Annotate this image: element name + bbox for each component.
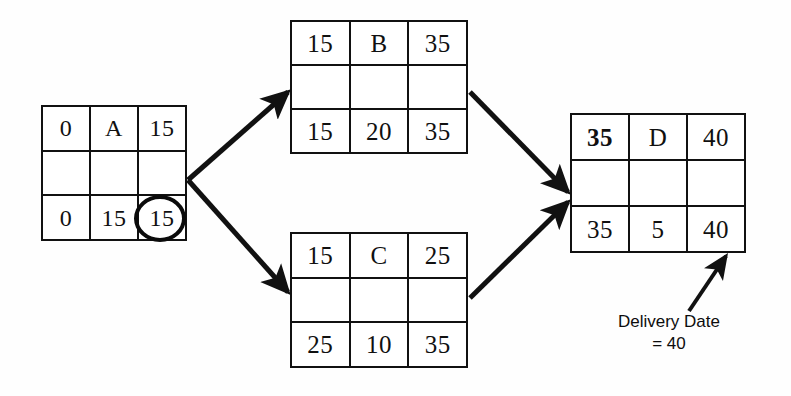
- delivery-date-value: = 40: [593, 333, 745, 355]
- node-a-label: A: [91, 107, 139, 150]
- node-b-label: B: [351, 22, 410, 64]
- node-d-late-finish: 40: [688, 207, 744, 251]
- node-a-duration: 15: [91, 196, 139, 239]
- node-d-slack-right: [688, 161, 744, 205]
- node-c-top-row: 15 C 25: [292, 234, 466, 279]
- node-b-duration: 20: [351, 110, 410, 152]
- node-c-slack-right: [409, 279, 466, 322]
- node-a-slack-center: [91, 152, 139, 195]
- node-d[interactable]: 35 D 40 35 5 40: [570, 113, 746, 253]
- node-b-early-start: 15: [292, 22, 351, 64]
- node-c-bottom-row: 25 10 35: [292, 323, 466, 366]
- edge-a-to-b: [188, 92, 288, 180]
- node-b-bottom-row: 15 20 35: [292, 110, 466, 152]
- node-b-slack-right: [409, 66, 466, 108]
- node-b-middle-row: [292, 66, 466, 110]
- node-b-late-finish: 35: [409, 110, 466, 152]
- edge-c-to-d: [470, 202, 568, 298]
- edge-b-to-d: [470, 92, 568, 192]
- node-d-late-start: 35: [572, 207, 630, 251]
- node-d-early-start: 35: [572, 115, 630, 159]
- delivery-date-label: Delivery Date: [618, 312, 720, 331]
- node-c-middle-row: [292, 279, 466, 324]
- node-a-slack-right: [139, 152, 185, 195]
- node-a-early-start: 0: [43, 107, 91, 150]
- node-b-top-row: 15 B 35: [292, 22, 466, 66]
- delivery-date-callout: Delivery Date = 40: [593, 311, 745, 355]
- node-d-duration: 5: [630, 207, 688, 251]
- node-d-top-row: 35 D 40: [572, 115, 744, 161]
- node-d-slack-center: [630, 161, 688, 205]
- node-b-late-start: 15: [292, 110, 351, 152]
- node-c-slack-left: [292, 279, 351, 322]
- node-d-slack-left: [572, 161, 630, 205]
- node-c-duration: 10: [351, 323, 410, 366]
- highlight-ellipse-node-a-late-finish: [134, 195, 186, 242]
- node-a-middle-row: [43, 152, 185, 197]
- edge-a-to-c: [188, 180, 288, 292]
- delivery-date-leader-arrow: [689, 256, 726, 311]
- node-c[interactable]: 15 C 25 25 10 35: [290, 232, 468, 368]
- node-a-top-row: 0 A 15: [43, 107, 185, 152]
- node-a-slack-left: [43, 152, 91, 195]
- node-c-early-start: 15: [292, 234, 351, 277]
- node-b[interactable]: 15 B 35 15 20 35: [290, 20, 468, 154]
- node-a-early-finish: 15: [139, 107, 185, 150]
- node-b-slack-left: [292, 66, 351, 108]
- node-a-late-start: 0: [43, 196, 91, 239]
- network-diagram-canvas: 0 A 15 0 15 15 15 B 35 15 20: [0, 0, 791, 396]
- node-c-slack-center: [351, 279, 410, 322]
- node-d-bottom-row: 35 5 40: [572, 207, 744, 251]
- node-c-late-finish: 35: [409, 323, 466, 366]
- node-b-slack-center: [351, 66, 410, 108]
- node-d-early-finish: 40: [688, 115, 744, 159]
- node-b-early-finish: 35: [409, 22, 466, 64]
- node-d-middle-row: [572, 161, 744, 207]
- node-d-label: D: [630, 115, 688, 159]
- node-c-early-finish: 25: [409, 234, 466, 277]
- node-c-late-start: 25: [292, 323, 351, 366]
- node-c-label: C: [351, 234, 410, 277]
